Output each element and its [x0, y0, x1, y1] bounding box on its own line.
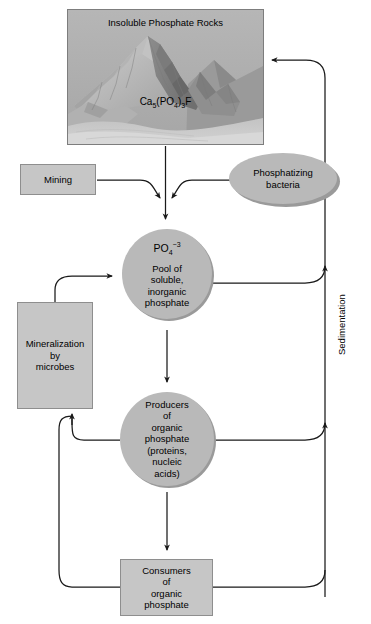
mineralization-label: Mineralization by microbes	[26, 338, 85, 373]
mountain-illustration	[68, 10, 263, 144]
mineralization-label-line1: Mineralization	[26, 338, 85, 350]
node-mineralization: Mineralization by microbes	[17, 302, 93, 409]
producers-label-line3: organic	[145, 422, 189, 434]
producers-label-line6: nucleic	[145, 456, 189, 468]
node-phosphatizing-bacteria: Phosphatizing bacteria	[229, 153, 337, 204]
consumers-label-line1: Consumers	[142, 565, 191, 577]
consumers-label-line3: organic	[142, 588, 191, 600]
bacteria-label-line2: bacteria	[253, 179, 313, 191]
ion-po: PO	[153, 242, 168, 254]
producers-label-line5: (proteins,	[145, 445, 189, 457]
phosphorus-cycle-diagram: Insoluble Phosphate Rocks Ca5(PO4)3F Min…	[0, 0, 371, 624]
edge-producers-to-mineralization	[72, 418, 120, 440]
edge-consumers-to-mineralization	[59, 416, 120, 587]
bacteria-label-line1: Phosphatizing	[253, 167, 313, 179]
sedimentation-edge-label: Sedimentation	[336, 294, 347, 355]
ion-sub-4: 4	[169, 249, 173, 256]
consumers-label-line2: of	[142, 576, 191, 588]
producers-label-line2: of	[145, 410, 189, 422]
edge-pool-to-sedimentation	[212, 266, 325, 283]
node-mining: Mining	[20, 164, 96, 195]
node-consumers: Consumers of organic phosphate	[120, 559, 213, 616]
producers-label-line1: Producers	[145, 399, 189, 411]
producers-label-line4: phosphate	[145, 433, 189, 445]
node-producers: Producers of organic phosphate (proteins…	[120, 392, 214, 486]
mineralization-label-line2: by	[26, 350, 85, 362]
formula-f: F	[185, 96, 191, 107]
edge-mineralization-to-pool	[55, 276, 112, 302]
bacteria-label: Phosphatizing bacteria	[253, 167, 313, 190]
rocks-title: Insoluble Phosphate Rocks	[68, 17, 263, 29]
formula-po: (PO	[156, 96, 174, 107]
mineralization-label-line3: microbes	[26, 361, 85, 373]
edge-mining-to-pool	[97, 180, 160, 198]
sedimentation-trunk	[272, 60, 325, 597]
ion-charge: −3	[173, 241, 181, 248]
pool-label: Pool of soluble, inorganic phosphate	[145, 263, 189, 309]
formula-ca: Ca	[140, 96, 153, 107]
pool-label-line1: Pool of	[145, 263, 189, 275]
phosphate-ion-formula: PO4−3	[153, 239, 180, 258]
pool-label-line4: phosphate	[145, 297, 189, 309]
producers-label: Producers of organic phosphate (proteins…	[145, 399, 189, 480]
edge-producers-to-sedimentation	[214, 423, 325, 440]
producers-label-line7: acids)	[145, 468, 189, 480]
pool-label-line3: inorganic	[145, 286, 189, 298]
pool-label-line2: soluble,	[145, 274, 189, 286]
edge-bacteria-to-pool	[172, 180, 232, 198]
consumers-label: Consumers of organic phosphate	[142, 565, 191, 611]
consumers-label-line4: phosphate	[142, 599, 191, 611]
insoluble-phosphate-rocks-panel: Insoluble Phosphate Rocks Ca5(PO4)3F	[67, 9, 264, 145]
rocks-chemical-formula: Ca5(PO4)3F	[68, 96, 263, 112]
edge-consumers-to-sedimentation	[213, 570, 325, 587]
node-phosphate-pool: PO4−3 Pool of soluble, inorganic phospha…	[122, 229, 212, 319]
mining-label: Mining	[44, 174, 72, 186]
